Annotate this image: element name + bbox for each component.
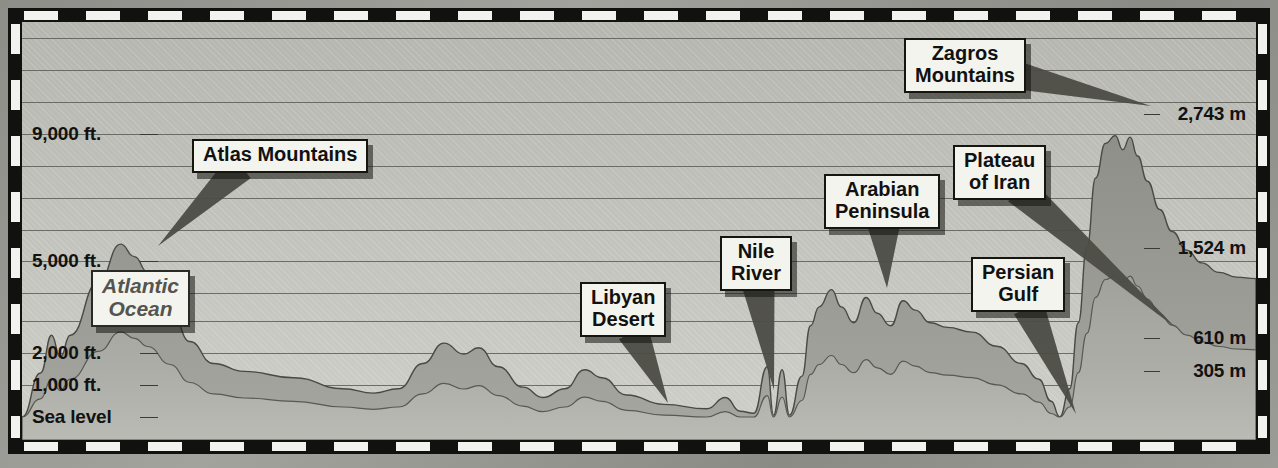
- callout-atlantic-ocean: Atlantic Ocean: [91, 270, 190, 327]
- elevation-profile-figure: 9,000 ft.5,000 ft.2,000 ft.1,000 ft.Sea …: [0, 0, 1278, 468]
- chart-panel: 9,000 ft.5,000 ft.2,000 ft.1,000 ft.Sea …: [22, 22, 1256, 440]
- callout-arabian-peninsula: Arabian Peninsula: [824, 174, 940, 229]
- callout-nile-river: Nile River: [720, 236, 792, 291]
- frame-dashes-bottom: [24, 442, 1254, 451]
- pointer-arabian-peninsula: [868, 226, 900, 288]
- callout-atlas-mountains: Atlas Mountains: [192, 139, 368, 173]
- callout-zagros-mountains: Zagros Mountains: [904, 38, 1026, 93]
- frame-dashes-right: [1258, 24, 1267, 438]
- callout-persian-gulf: Persian Gulf: [971, 257, 1065, 312]
- pointer-wedges: [22, 22, 1256, 440]
- callout-plateau-of-iran: Plateau of Iran: [953, 145, 1046, 200]
- frame-dashes-left: [11, 24, 20, 438]
- frame-dashes-top: [24, 11, 1254, 20]
- callout-libyan-desert: Libyan Desert: [580, 282, 666, 337]
- film-strip-frame: 9,000 ft.5,000 ft.2,000 ft.1,000 ft.Sea …: [8, 8, 1270, 454]
- pointer-nile-river: [743, 286, 774, 390]
- pointer-persian-gulf: [1014, 301, 1076, 414]
